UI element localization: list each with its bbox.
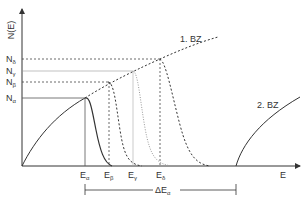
e-beta-label: Eβ bbox=[104, 170, 114, 181]
gamma-falloff bbox=[133, 71, 172, 166]
gap-label: ΔEα bbox=[155, 185, 171, 196]
y-axis-label: N(E) bbox=[6, 21, 16, 40]
delta-falloff bbox=[160, 59, 210, 166]
e-delta-label: Eδ bbox=[156, 170, 166, 181]
zone1-curve-dashed bbox=[85, 37, 218, 98]
e-gamma-label: Eγ bbox=[128, 170, 137, 181]
n-beta-label: Nβ bbox=[6, 77, 17, 88]
n-alpha-label: Nα bbox=[6, 93, 17, 104]
e-alpha-label: Eα bbox=[80, 170, 90, 181]
n-delta-label: Nδ bbox=[6, 54, 17, 65]
density-of-states-diagram: N(E) Nδ Nγ Nβ Nα Eα Eβ Eγ Eδ E 1. BZ 2. … bbox=[0, 0, 304, 201]
x-axis-label: E bbox=[280, 170, 286, 180]
zone2-label: 2. BZ bbox=[257, 100, 279, 110]
zone1-curve-solid bbox=[22, 98, 85, 166]
n-gamma-label: Nγ bbox=[6, 66, 16, 77]
zone1-label: 1. BZ bbox=[180, 34, 202, 44]
beta-falloff bbox=[108, 82, 142, 166]
alpha-falloff bbox=[85, 98, 112, 166]
